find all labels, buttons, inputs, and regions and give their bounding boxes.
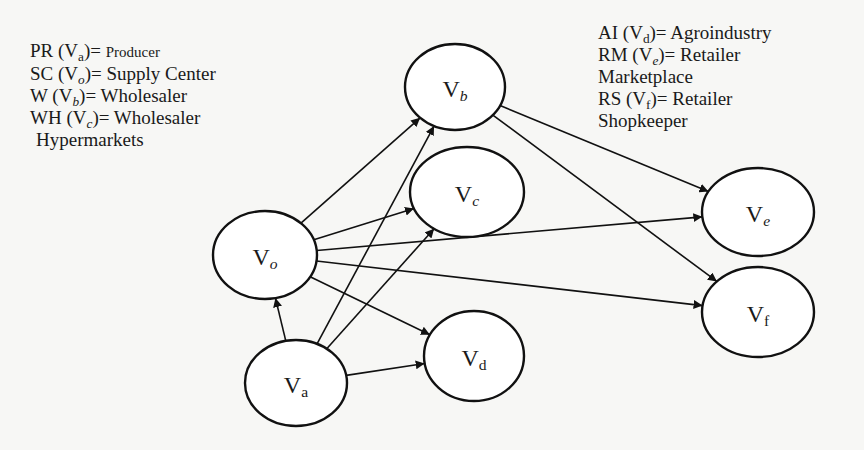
edge-va-to-vd-arrow	[346, 363, 425, 375]
node-vb	[405, 44, 505, 130]
node-vd	[424, 311, 524, 401]
edge-vo-to-vd-arrow	[310, 277, 430, 335]
node-vo	[213, 211, 317, 299]
edge-va-to-vb-arrow	[317, 126, 434, 344]
edge-vo-to-vc-arrow	[314, 209, 414, 240]
node-layer	[213, 44, 814, 426]
edge-va-to-vc-arrow	[327, 229, 434, 349]
node-va	[245, 340, 347, 426]
edge-vb-to-vf-arrow	[493, 115, 717, 281]
edge-vb-to-ve-arrow	[500, 106, 708, 192]
edge-vo-to-vf-arrow	[317, 261, 703, 306]
edge-va-to-vo-arrow	[275, 298, 285, 341]
edge-vo-to-vb-arrow	[301, 118, 420, 223]
node-vf	[702, 267, 814, 357]
node-ve	[702, 168, 814, 256]
node-vc	[410, 147, 524, 237]
supply-chain-graph	[0, 0, 864, 450]
